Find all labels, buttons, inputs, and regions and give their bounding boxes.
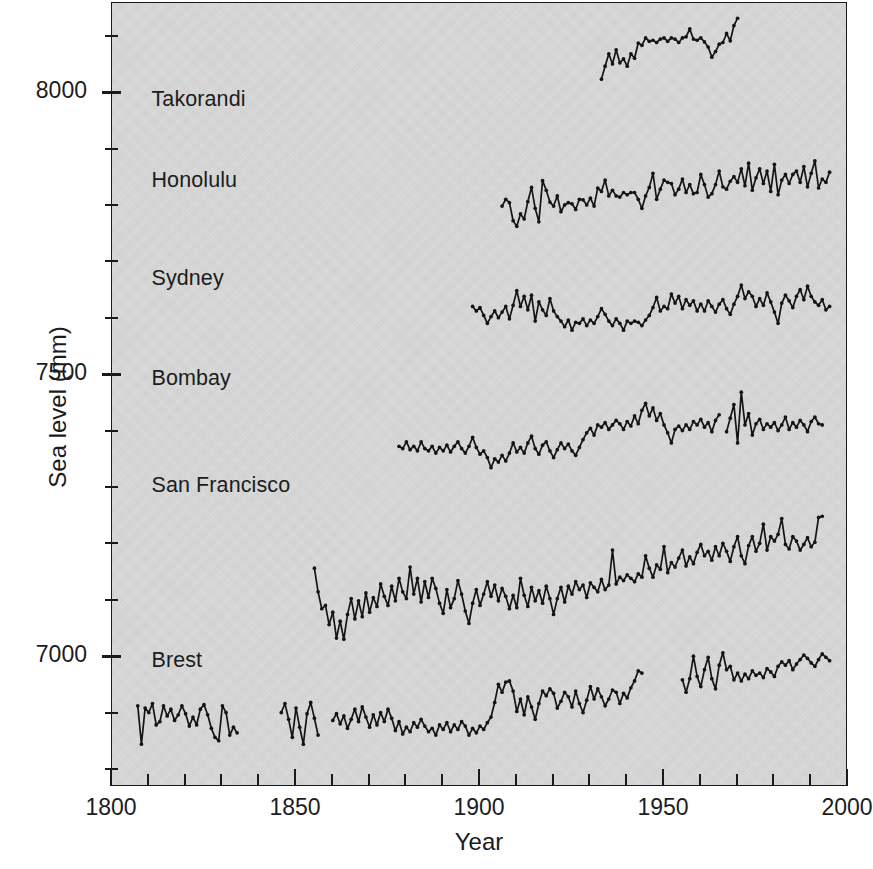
series-marker — [360, 705, 364, 709]
series-marker — [677, 41, 681, 45]
series-marker — [508, 317, 512, 321]
series-marker — [629, 686, 633, 690]
series-marker — [658, 187, 662, 191]
series-marker — [681, 36, 685, 40]
series-marker — [769, 425, 773, 429]
series-marker — [780, 517, 784, 521]
series-marker — [677, 294, 681, 298]
series-marker — [202, 703, 206, 707]
series-marker — [710, 55, 714, 59]
series-marker — [309, 701, 313, 705]
series-marker — [736, 535, 740, 539]
series-marker — [537, 452, 541, 456]
series-marker — [692, 192, 696, 196]
series-line-bombay — [727, 392, 823, 443]
series-marker — [500, 310, 504, 314]
series-marker — [416, 576, 420, 580]
series-marker — [401, 732, 405, 736]
series-marker — [221, 704, 225, 708]
series-marker — [618, 322, 622, 326]
series-marker — [636, 320, 640, 324]
series-marker — [136, 704, 140, 708]
series-marker — [585, 203, 589, 207]
series-marker — [596, 687, 600, 691]
series-marker — [563, 447, 567, 451]
series-marker — [471, 601, 475, 605]
x-tick-label: 1900 — [453, 794, 504, 821]
series-marker — [313, 716, 317, 720]
series-marker — [386, 604, 390, 608]
series-marker — [717, 302, 721, 306]
series-marker — [714, 419, 718, 423]
series-marker — [773, 539, 777, 543]
series-marker — [699, 417, 703, 421]
series-marker — [695, 675, 699, 679]
series-marker — [706, 655, 710, 659]
series-marker — [666, 431, 670, 435]
series-marker — [364, 591, 368, 595]
series-marker — [684, 690, 688, 694]
series-marker — [434, 733, 438, 737]
series-marker — [809, 171, 813, 175]
series-marker — [500, 690, 504, 694]
series-marker — [592, 322, 596, 326]
series-marker — [187, 724, 191, 728]
series-marker — [809, 661, 813, 665]
series-marker — [721, 298, 725, 302]
series-marker — [603, 64, 607, 68]
series-marker — [368, 725, 372, 729]
series-marker — [703, 40, 707, 44]
series-marker — [780, 423, 784, 427]
series-marker — [692, 654, 696, 658]
series-marker — [500, 587, 504, 591]
series-marker — [622, 428, 626, 432]
series-marker — [728, 179, 732, 183]
series-marker — [784, 415, 788, 419]
series-marker — [357, 720, 361, 724]
series-marker — [600, 307, 604, 311]
series-marker — [559, 319, 563, 323]
series-marker — [449, 730, 453, 734]
series-marker — [703, 425, 707, 429]
series-marker — [482, 314, 486, 318]
series-marker — [732, 403, 736, 407]
series-marker — [806, 536, 810, 540]
series-marker — [508, 607, 512, 611]
series-marker — [526, 441, 530, 445]
series-marker — [607, 428, 611, 432]
series-marker — [662, 423, 666, 427]
series-marker — [802, 653, 806, 657]
series-marker — [681, 548, 685, 552]
series-marker — [519, 697, 523, 701]
series-marker — [578, 588, 582, 592]
series-marker — [600, 578, 604, 582]
series-marker — [581, 711, 585, 715]
series-marker — [552, 204, 556, 208]
series-marker — [798, 419, 802, 423]
series-marker — [382, 595, 386, 599]
series-marker — [511, 219, 515, 223]
series-marker — [533, 599, 537, 603]
series-marker — [408, 448, 412, 452]
series-marker — [762, 182, 766, 186]
series-marker — [552, 692, 556, 696]
series-marker — [324, 604, 328, 608]
series-marker — [566, 695, 570, 699]
series-marker — [732, 175, 736, 179]
series-marker — [552, 309, 556, 313]
series-marker — [452, 444, 456, 448]
series-lines-svg — [112, 3, 847, 786]
series-marker — [699, 685, 703, 689]
series-marker — [699, 36, 703, 40]
series-marker — [636, 197, 640, 201]
series-marker — [589, 318, 593, 322]
series-marker — [806, 284, 810, 288]
series-marker — [471, 305, 475, 309]
series-marker — [725, 430, 729, 434]
series-marker — [504, 305, 508, 309]
series-marker — [765, 422, 769, 426]
series-marker — [817, 422, 821, 426]
series-marker — [611, 548, 615, 552]
series-marker — [217, 739, 221, 743]
series-marker — [316, 590, 320, 594]
